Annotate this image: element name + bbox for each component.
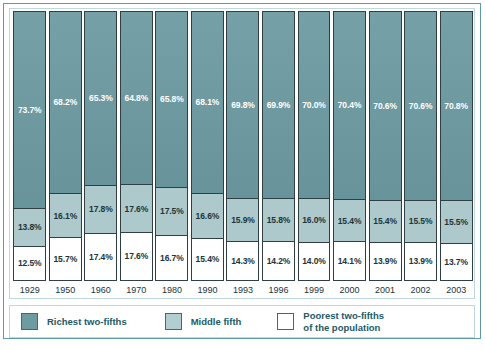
bar-segment-value-label: 14.3% xyxy=(231,257,255,266)
bar-segment[interactable]: 17.4% xyxy=(84,233,117,281)
legend-item[interactable]: Middle fifth xyxy=(165,313,242,330)
bar-segment-value-label: 16.1% xyxy=(53,212,77,221)
bar-segment[interactable]: 14.2% xyxy=(262,241,295,281)
bar-segment[interactable]: 15.5% xyxy=(440,200,473,242)
bar-segment[interactable]: 65.3% xyxy=(84,11,117,185)
bar-segment-value-label: 70.4% xyxy=(338,101,362,110)
bar-column[interactable]: 73.7%13.8%12.5% xyxy=(13,11,46,281)
legend-swatch-poor xyxy=(277,313,294,330)
legend-swatch-rich xyxy=(21,313,38,330)
x-axis-tick-label: 2000 xyxy=(333,283,366,299)
bar-segment-value-label: 13.7% xyxy=(444,258,468,267)
bar-segment[interactable]: 15.4% xyxy=(191,238,224,281)
bar-segment-value-label: 16.6% xyxy=(196,212,220,221)
bar-column[interactable]: 70.6%15.5%13.9% xyxy=(404,11,437,281)
bar-segment[interactable]: 15.9% xyxy=(226,198,259,241)
x-axis-year-labels: 1929195019601970198019901993199619992000… xyxy=(12,283,474,299)
legend-swatch-mid xyxy=(165,313,182,330)
bar-segment[interactable]: 15.7% xyxy=(49,237,82,281)
bar-segment[interactable]: 70.0% xyxy=(298,11,331,198)
bar-segment[interactable]: 17.6% xyxy=(120,232,153,281)
legend-item[interactable]: Richest two-fifths xyxy=(21,313,127,330)
bar-segment-value-label: 70.0% xyxy=(302,101,326,110)
bar-segment-value-label: 15.7% xyxy=(53,255,77,264)
bar-segment[interactable]: 17.5% xyxy=(155,187,188,235)
bar-segment-value-label: 15.4% xyxy=(338,217,362,226)
bar-segment-value-label: 69.8% xyxy=(231,101,255,110)
bar-segment[interactable]: 13.9% xyxy=(404,242,437,281)
bar-segment-value-label: 14.0% xyxy=(302,257,326,266)
bar-segment[interactable]: 64.8% xyxy=(120,11,153,184)
bar-column[interactable]: 70.4%15.4%14.1% xyxy=(333,11,366,281)
bar-column[interactable]: 70.8%15.5%13.7% xyxy=(440,11,473,281)
bar-segment[interactable]: 15.4% xyxy=(333,199,366,241)
bar-segment[interactable]: 16.6% xyxy=(191,193,224,238)
bar-segment[interactable]: 16.1% xyxy=(49,193,82,237)
x-axis-tick-label: 2003 xyxy=(440,283,473,299)
bar-segment-value-label: 68.1% xyxy=(196,98,220,107)
bar-segment[interactable]: 16.0% xyxy=(298,198,331,242)
x-axis-tick-label: 1996 xyxy=(262,283,295,299)
bar-segment[interactable]: 70.6% xyxy=(404,11,437,200)
bar-segment-value-label: 13.8% xyxy=(18,223,42,232)
bar-column[interactable]: 70.6%15.4%13.9% xyxy=(369,11,402,281)
bar-segment[interactable]: 13.9% xyxy=(369,242,402,281)
bar-segment[interactable]: 70.8% xyxy=(440,11,473,200)
bar-segment[interactable]: 65.8% xyxy=(155,11,188,187)
bar-segment[interactable]: 70.6% xyxy=(369,11,402,200)
x-axis-tick-label: 1929 xyxy=(13,283,46,299)
bar-segment-value-label: 15.4% xyxy=(196,255,220,264)
bar-segment-value-label: 15.5% xyxy=(444,218,468,227)
bar-segment[interactable]: 14.3% xyxy=(226,241,259,281)
x-axis-tick-label: 1970 xyxy=(120,283,153,299)
bar-segment[interactable]: 14.1% xyxy=(333,241,366,281)
bar-segment[interactable]: 73.7% xyxy=(13,11,46,208)
x-axis-tick-label: 2001 xyxy=(369,283,402,299)
legend-label-line2: of the population xyxy=(303,322,384,334)
bar-column[interactable]: 68.1%16.6%15.4% xyxy=(191,11,224,281)
bar-column[interactable]: 68.2%16.1%15.7% xyxy=(49,11,82,281)
bar-column[interactable]: 70.0%16.0%14.0% xyxy=(298,11,331,281)
bar-segment[interactable]: 12.5% xyxy=(13,246,46,281)
bar-segment[interactable]: 15.5% xyxy=(404,200,437,242)
bar-segment[interactable]: 68.1% xyxy=(191,11,224,193)
bar-segment[interactable]: 17.8% xyxy=(84,185,117,233)
bar-segment-value-label: 16.0% xyxy=(302,216,326,225)
bar-segment[interactable]: 15.4% xyxy=(369,200,402,242)
x-axis-tick-label: 1960 xyxy=(84,283,117,299)
bar-column[interactable]: 64.8%17.6%17.6% xyxy=(120,11,153,281)
bar-segment-value-label: 16.7% xyxy=(160,254,184,263)
bar-segment-value-label: 15.5% xyxy=(409,217,433,226)
bar-segment-value-label: 17.5% xyxy=(160,207,184,216)
bar-segment[interactable]: 70.4% xyxy=(333,11,366,199)
bar-column[interactable]: 65.8%17.5%16.7% xyxy=(155,11,188,281)
bar-segment[interactable]: 13.7% xyxy=(440,243,473,281)
bar-column[interactable]: 69.9%15.8%14.2% xyxy=(262,11,295,281)
bar-segment-value-label: 17.6% xyxy=(125,205,149,214)
bar-column[interactable]: 65.3%17.8%17.4% xyxy=(84,11,117,281)
bar-segment-value-label: 65.3% xyxy=(89,94,113,103)
bar-segment[interactable]: 17.6% xyxy=(120,184,153,232)
plot-area: 73.7%13.8%12.5%68.2%16.1%15.7%65.3%17.8%… xyxy=(12,11,474,281)
bar-segment-value-label: 17.4% xyxy=(89,253,113,262)
bar-segment-value-label: 13.9% xyxy=(409,257,433,266)
bar-segment[interactable]: 15.8% xyxy=(262,198,295,241)
legend-item[interactable]: Poorest two-fifthsof the population xyxy=(277,310,384,333)
bar-segment-value-label: 70.8% xyxy=(444,102,468,111)
bar-segment[interactable]: 16.7% xyxy=(155,235,188,281)
bar-segment[interactable]: 69.8% xyxy=(226,11,259,198)
bar-segment[interactable]: 14.0% xyxy=(298,242,331,281)
bar-segment[interactable]: 68.2% xyxy=(49,11,82,193)
bar-segment[interactable]: 69.9% xyxy=(262,11,295,198)
bar-segment-value-label: 70.6% xyxy=(373,102,397,111)
legend-label-line1: Poorest two-fifths xyxy=(303,310,384,321)
bar-segment-value-label: 14.2% xyxy=(267,257,291,266)
legend-label: Middle fifth xyxy=(191,316,242,328)
legend-label-line1: Middle fifth xyxy=(191,316,242,327)
bar-segment-value-label: 14.1% xyxy=(338,257,362,266)
bar-segment[interactable]: 13.8% xyxy=(13,208,46,246)
bar-column[interactable]: 69.8%15.9%14.3% xyxy=(226,11,259,281)
bar-segment-value-label: 15.9% xyxy=(231,216,255,225)
bar-segment-value-label: 73.7% xyxy=(18,106,42,115)
bar-segment-value-label: 64.8% xyxy=(125,94,149,103)
